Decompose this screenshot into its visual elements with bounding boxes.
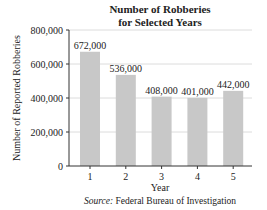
chart-title: Number of Robberies: [109, 3, 211, 15]
y-axis-label: Number of Reported Robberies: [11, 35, 22, 161]
x-axis-label: Year: [151, 182, 170, 193]
y-axis-ticks: 0200,000400,000600,000800,000: [31, 25, 70, 172]
bar: [152, 97, 172, 166]
bar: [223, 91, 243, 166]
robberies-bar-chart: Number of Robberies for Selected Years 0…: [0, 0, 267, 210]
y-tick-label: 800,000: [31, 25, 64, 36]
x-tick-label: 2: [123, 171, 128, 182]
y-tick-label: 600,000: [31, 59, 64, 70]
data-labels: 672,000536,000408,000401,000442,000: [74, 40, 250, 97]
y-tick-label: 400,000: [31, 93, 64, 104]
bar: [116, 75, 136, 166]
x-tick-label: 4: [195, 171, 200, 182]
bars: [80, 52, 243, 166]
data-label: 408,000: [145, 85, 178, 96]
bar: [80, 52, 100, 166]
data-label: 536,000: [110, 63, 143, 74]
chart-subtitle: for Selected Years: [118, 16, 202, 28]
bar: [187, 98, 207, 166]
y-tick-label: 0: [58, 161, 63, 172]
data-label: 442,000: [217, 79, 250, 90]
source-text: Federal Bureau of Investigation: [113, 196, 236, 206]
x-tick-label: 3: [159, 171, 164, 182]
data-label: 672,000: [74, 40, 107, 51]
source-prefix: Source:: [84, 196, 113, 206]
x-tick-label: 1: [88, 171, 93, 182]
x-axis-ticks: 12345: [88, 166, 236, 182]
y-tick-label: 200,000: [31, 127, 64, 138]
data-label: 401,000: [181, 86, 214, 97]
x-tick-label: 5: [231, 171, 236, 182]
source-note: Source: Federal Bureau of Investigation: [84, 196, 236, 206]
